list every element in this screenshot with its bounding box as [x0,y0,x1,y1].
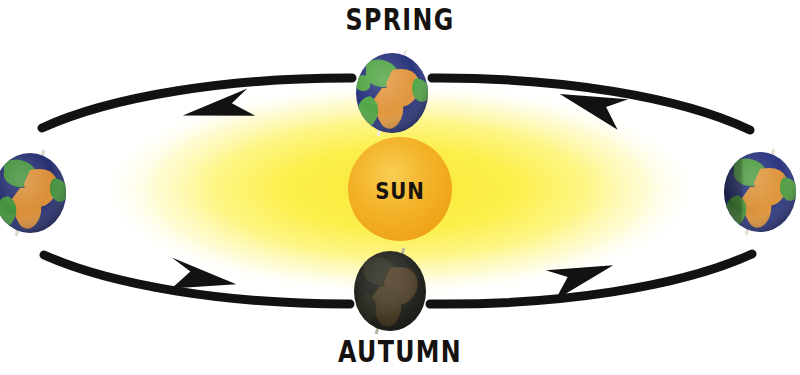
season-label-spring: SPRING [48,2,752,36]
earth-left[interactable] [0,150,68,236]
earth-sphere-shading [356,53,428,133]
earth-sphere-shading [354,251,426,331]
earth-sphere-shading [0,153,66,233]
earth-sphere-shading [724,152,796,232]
diagram-canvas: SPRING AUTUMN SUN [0,0,800,375]
orbit-diagram-svg [0,0,800,375]
earth-right[interactable] [724,149,798,235]
season-label-autumn: AUTUMN [48,334,752,368]
sun-body [348,137,452,241]
